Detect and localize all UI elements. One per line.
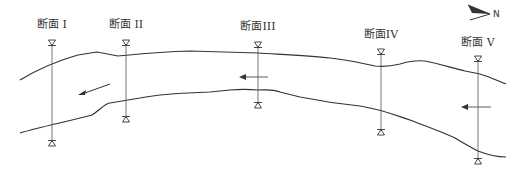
bank-marker-icon — [474, 159, 482, 165]
bank-marker-icon — [122, 117, 130, 123]
cross-section-4: 断面IV — [364, 27, 399, 135]
bank-marker-icon — [377, 130, 385, 136]
bank-marker-icon — [48, 141, 56, 147]
upper-bank-line — [20, 51, 506, 84]
cross-section-2: 断面 II — [109, 17, 143, 122]
north-label: N — [493, 9, 500, 19]
flow-arrow-icon — [78, 84, 110, 95]
flow-arrow-icon — [461, 104, 491, 110]
flow-arrow-icon — [239, 74, 268, 80]
water-level-marker-icon — [474, 56, 482, 62]
section-label: 断面 I — [37, 17, 67, 31]
cross-section-1: 断面 I — [37, 17, 67, 146]
water-level-marker-icon — [48, 40, 56, 46]
river-diagram: N 断面 I断面 II断面III断面IV断面 V — [0, 0, 523, 176]
section-label: 断面 V — [461, 35, 495, 49]
north-arrow-icon — [468, 5, 490, 20]
water-level-marker-icon — [254, 42, 262, 48]
section-label: 断面 II — [109, 17, 143, 31]
bank-marker-icon — [254, 103, 262, 109]
cross-section-3: 断面III — [240, 19, 275, 108]
water-level-marker-icon — [377, 49, 385, 55]
lower-bank-line — [20, 89, 506, 157]
section-label: 断面IV — [364, 27, 399, 41]
water-level-marker-icon — [122, 40, 130, 46]
section-label: 断面III — [240, 19, 275, 33]
